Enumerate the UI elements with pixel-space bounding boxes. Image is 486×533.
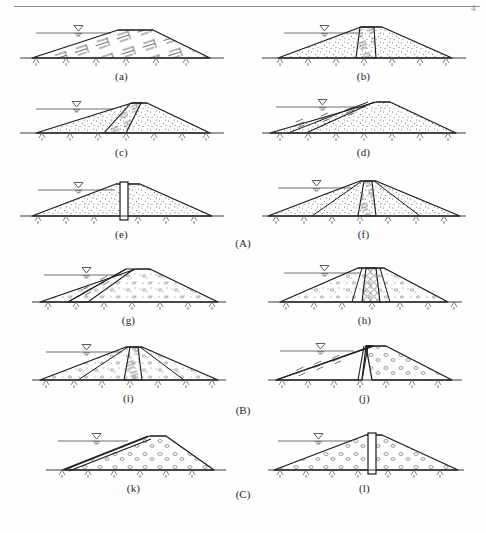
panel-i-label: (i) — [26, 392, 231, 404]
page-corner-marker: 4 — [471, 4, 480, 13]
water-table-symbol-d — [318, 100, 327, 110]
panel-j-label: (j) — [262, 392, 467, 404]
panel-b: (b) — [256, 14, 471, 70]
panel-k: (k) — [36, 424, 231, 482]
diaphragm-wall-l — [368, 433, 376, 474]
panel-i: (i) — [26, 338, 231, 392]
panel-b-label: (b) — [256, 70, 471, 82]
panel-l: (l) — [262, 424, 467, 482]
page-top-rule — [14, 6, 480, 7]
water-table-symbol-c — [72, 102, 81, 112]
water-table-symbol-a — [74, 26, 83, 36]
water-table-symbol-k — [92, 434, 101, 444]
water-table-symbol-l — [314, 434, 323, 444]
panel-a: (a) — [14, 14, 229, 70]
panel-f: (f) — [256, 170, 471, 228]
figure-sheet: 4 — [0, 0, 486, 533]
water-table-symbol-b — [320, 26, 329, 36]
group-label-c: (C) — [213, 488, 273, 500]
panel-l-label: (l) — [262, 482, 467, 494]
panel-c: (c) — [14, 92, 229, 146]
water-table-symbol-f — [312, 181, 321, 191]
panel-e-label: (e) — [14, 228, 229, 240]
panel-h-label: (h) — [262, 314, 467, 326]
water-table-symbol-j — [316, 344, 325, 354]
panel-h: (h) — [262, 258, 467, 314]
panel-d-label: (d) — [256, 146, 471, 158]
water-table-symbol-g — [82, 268, 91, 278]
panel-g: (g) — [26, 258, 231, 314]
clay-hatch-j — [295, 355, 342, 376]
diaphragm-wall-e — [120, 182, 128, 220]
panel-g-label: (g) — [26, 314, 231, 326]
panel-d: (d) — [256, 92, 471, 146]
water-table-symbol-e — [74, 183, 83, 193]
panel-j: (j) — [262, 338, 467, 392]
panel-k-label: (k) — [36, 482, 231, 494]
panel-e: (e) — [14, 170, 229, 228]
panel-f-label: (f) — [256, 228, 471, 240]
group-label-b: (B) — [213, 404, 273, 416]
water-table-symbol-h — [320, 266, 329, 276]
panel-c-label: (c) — [14, 146, 229, 158]
water-table-symbol-i — [82, 345, 91, 355]
panel-a-label: (a) — [14, 70, 229, 82]
group-label-a: (A) — [213, 237, 273, 249]
